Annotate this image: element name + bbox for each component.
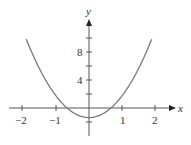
y-axis-arrow-icon xyxy=(86,19,92,26)
x-tick-label-1: 1 xyxy=(120,114,126,126)
x-tick-label-neg2: −2 xyxy=(15,114,27,126)
y-tick-label-8: 8 xyxy=(77,46,83,58)
y-axis-label: y xyxy=(85,5,91,17)
parabola-chart: x y −2 −1 1 2 8 4 xyxy=(0,0,191,145)
x-tick-label-neg1: −1 xyxy=(49,114,61,126)
x-axis-arrow-icon xyxy=(169,105,176,111)
x-axis-label: x xyxy=(177,102,183,114)
y-tick-label-4: 4 xyxy=(77,74,83,86)
x-tick-label-2: 2 xyxy=(152,114,158,126)
